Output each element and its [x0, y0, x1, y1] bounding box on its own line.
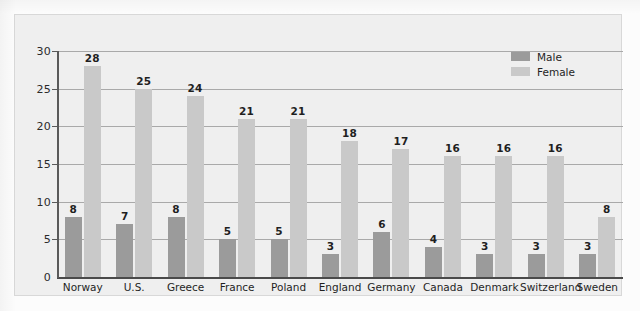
y-axis-tick-label: 0 [25, 271, 51, 284]
bar-group: 318 [314, 51, 365, 277]
x-axis-label-norway: Norway [57, 281, 108, 293]
bar-female[interactable] [238, 119, 255, 277]
gridline-0 [57, 277, 623, 279]
legend-label: Female [537, 66, 575, 78]
legend-label: Male [537, 51, 562, 63]
y-axis-labels: 051015202530 [23, 51, 51, 277]
bar-value-label: 28 [84, 52, 101, 64]
bar-value-label: 4 [425, 233, 442, 245]
bar-value-label: 3 [476, 240, 493, 252]
bar-female[interactable] [598, 217, 615, 277]
bar-group: 38 [572, 51, 623, 277]
bar-male[interactable] [476, 254, 493, 277]
bar-male[interactable] [579, 254, 596, 277]
bar-male[interactable] [322, 254, 339, 277]
x-axis-label-canada: Canada [417, 281, 468, 293]
y-axis-tick-label: 20 [25, 120, 51, 133]
x-axis-label-us: U.S. [108, 281, 159, 293]
bar-value-label: 6 [373, 218, 390, 230]
x-axis-label-sweden: Sweden [572, 281, 623, 293]
bar-male[interactable] [373, 232, 390, 277]
bar-value-label: 24 [187, 82, 204, 94]
bar-group: 824 [160, 51, 211, 277]
bar-male[interactable] [219, 239, 236, 277]
bar-male[interactable] [271, 239, 288, 277]
chart-legend: MaleFemale [511, 49, 595, 81]
bar-female[interactable] [290, 119, 307, 277]
x-axis-label-germany: Germany [366, 281, 417, 293]
bar-female[interactable] [187, 96, 204, 277]
legend-item-male[interactable]: Male [511, 49, 595, 64]
x-axis-labels: NorwayU.S.GreeceFrancePolandEnglandGerma… [57, 281, 623, 301]
bar-female[interactable] [135, 89, 152, 277]
bar-value-label: 16 [495, 142, 512, 154]
y-axis-tick-label: 10 [25, 195, 51, 208]
x-axis-label-england: England [314, 281, 365, 293]
x-axis-label-france: France [211, 281, 262, 293]
x-axis-label-greece: Greece [160, 281, 211, 293]
y-axis-tick-label: 25 [25, 82, 51, 95]
bar-value-label: 16 [547, 142, 564, 154]
x-axis-label-denmark: Denmark [469, 281, 520, 293]
bar-group: 521 [263, 51, 314, 277]
legend-swatch-female [511, 67, 530, 76]
bar-group: 316 [469, 51, 520, 277]
y-axis-tick-label: 5 [25, 233, 51, 246]
y-axis-tick-label: 30 [25, 45, 51, 58]
bar-value-label: 7 [116, 210, 133, 222]
bar-male[interactable] [65, 217, 82, 277]
bar-male[interactable] [425, 247, 442, 277]
bar-value-label: 18 [341, 127, 358, 139]
bar-group: 617 [366, 51, 417, 277]
bar-group: 316 [520, 51, 571, 277]
bar-chart-figure: 051015202530 828725824521521318617416316… [0, 0, 640, 311]
bar-female[interactable] [444, 156, 461, 277]
bar-female[interactable] [341, 141, 358, 277]
bar-value-label: 5 [219, 225, 236, 237]
x-axis-label-switzerland: Switzerland [520, 281, 571, 293]
bar-value-label: 3 [579, 240, 596, 252]
bar-male[interactable] [528, 254, 545, 277]
bar-male[interactable] [168, 217, 185, 277]
bar-value-label: 8 [598, 203, 615, 215]
legend-swatch-male [511, 52, 530, 61]
bar-female[interactable] [392, 149, 409, 277]
bar-group: 828 [57, 51, 108, 277]
bar-male[interactable] [116, 224, 133, 277]
bar-value-label: 16 [444, 142, 461, 154]
bar-group: 416 [417, 51, 468, 277]
bar-value-label: 8 [65, 203, 82, 215]
bar-value-label: 3 [528, 240, 545, 252]
legend-item-female[interactable]: Female [511, 64, 595, 79]
bar-value-label: 21 [238, 105, 255, 117]
bar-value-label: 17 [392, 135, 409, 147]
bars-layer: 82872582452152131861741631631638 [57, 51, 623, 277]
bar-group: 521 [211, 51, 262, 277]
bar-group: 725 [108, 51, 159, 277]
x-axis-label-poland: Poland [263, 281, 314, 293]
bar-value-label: 3 [322, 240, 339, 252]
bar-value-label: 25 [135, 75, 152, 87]
bar-female[interactable] [495, 156, 512, 277]
bar-female[interactable] [84, 66, 101, 277]
bar-female[interactable] [547, 156, 564, 277]
bar-value-label: 21 [290, 105, 307, 117]
y-axis-tick-label: 15 [25, 158, 51, 171]
bar-value-label: 8 [168, 203, 185, 215]
bar-value-label: 5 [271, 225, 288, 237]
chart-plate: 051015202530 828725824521521318617416316… [14, 14, 622, 296]
